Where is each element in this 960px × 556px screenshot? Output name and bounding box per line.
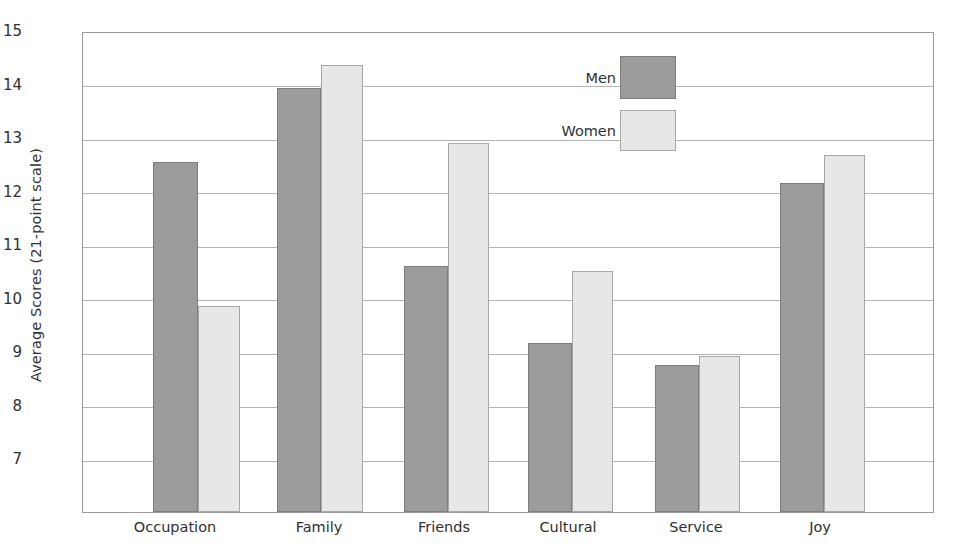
bar-cultural-men: [528, 343, 572, 512]
y-tick-label-10: 10: [0, 292, 22, 307]
x-tick-label-friends: Friends: [373, 519, 515, 535]
bar-family-women: [321, 65, 363, 512]
y-tick-label-9: 9: [0, 345, 22, 360]
legend-item-women: Women: [540, 110, 676, 151]
legend-label-men: Men: [540, 70, 620, 86]
bar-service-men: [655, 365, 699, 512]
x-tick-label-family: Family: [248, 519, 390, 535]
bar-occupation-women: [198, 306, 240, 512]
bar-friends-men: [404, 266, 448, 512]
y-tick-label-15: 15: [0, 24, 22, 39]
y-tick-label-12: 12: [0, 185, 22, 200]
bar-chart: Average Scores (21-point scale) 15 14 13…: [0, 0, 960, 556]
gridline-13: [83, 140, 933, 141]
y-tick-label-7: 7: [0, 452, 22, 467]
bar-friends-women: [448, 143, 489, 512]
bar-service-women: [699, 356, 740, 512]
x-tick-label-cultural: Cultural: [497, 519, 639, 535]
legend-swatch-women-icon: [620, 110, 676, 151]
y-tick-label-14: 14: [0, 78, 22, 93]
legend-item-men: Men: [540, 56, 676, 99]
bar-joy-men: [780, 183, 824, 512]
bar-family-men: [277, 88, 321, 512]
bar-joy-women: [824, 155, 865, 512]
y-axis-title: Average Scores (21-point scale): [28, 30, 44, 500]
x-tick-label-service: Service: [625, 519, 767, 535]
legend-label-women: Women: [540, 123, 620, 139]
legend-swatch-men-icon: [620, 56, 676, 99]
bar-occupation-men: [153, 162, 198, 512]
y-tick-label-11: 11: [0, 238, 22, 253]
bar-cultural-women: [572, 271, 613, 512]
x-tick-label-occupation: Occupation: [104, 519, 246, 535]
plot-area: [82, 32, 934, 513]
y-tick-label-8: 8: [0, 399, 22, 414]
y-tick-label-13: 13: [0, 131, 22, 146]
x-tick-label-joy: Joy: [749, 519, 891, 535]
gridline-14: [83, 86, 933, 87]
